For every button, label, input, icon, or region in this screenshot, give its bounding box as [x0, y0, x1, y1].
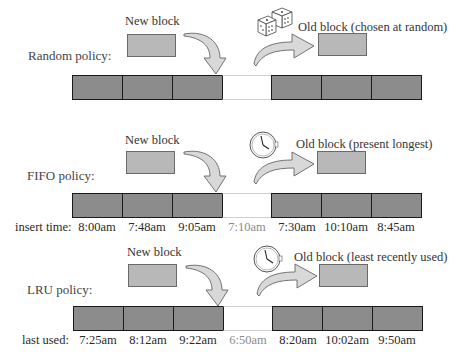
cache-block	[73, 306, 124, 331]
old-block-label: Old block (least recently used)	[294, 250, 447, 265]
cache-block	[173, 306, 224, 331]
cache-block	[271, 75, 322, 100]
cache-block	[321, 75, 372, 100]
old-block	[319, 264, 368, 287]
insert-arrow-icon	[182, 260, 242, 310]
policy-label-lru: LRU policy:	[27, 282, 92, 298]
cache-block	[272, 306, 323, 331]
cache-block	[372, 306, 423, 331]
empty-slot	[222, 193, 273, 218]
new-block	[128, 264, 177, 287]
cache-block	[371, 75, 422, 100]
cache-blocks-random	[72, 75, 422, 100]
empty-slot	[222, 75, 273, 100]
cache-block	[123, 306, 174, 331]
time-value: 8:45am	[366, 220, 426, 235]
cache-block	[172, 193, 223, 218]
last-used-label: last used:	[22, 333, 69, 348]
old-block-label: Old block (present longest)	[296, 137, 432, 152]
cache-block	[322, 306, 373, 331]
policy-label-fifo: FIFO policy:	[27, 168, 95, 184]
evict-arrow-icon	[252, 146, 318, 186]
new-block	[126, 151, 175, 174]
new-block	[127, 34, 176, 57]
cache-block	[172, 75, 223, 100]
cache-block	[271, 193, 322, 218]
insert-time-label: insert time:	[15, 220, 72, 235]
cache-block	[371, 193, 422, 218]
time-value: 9:50am	[367, 333, 427, 348]
cache-block	[122, 75, 173, 100]
policy-label-random: Random policy:	[28, 48, 111, 64]
old-block	[317, 151, 366, 174]
cache-blocks-lru	[73, 306, 423, 331]
cache-blocks-fifo	[72, 193, 422, 218]
insert-arrow-icon	[180, 28, 240, 78]
insert-arrow-icon	[180, 146, 240, 196]
last-used-row: last used: 7:25am 8:12am 9:22am 6:50am 8…	[0, 333, 459, 349]
cache-block	[72, 75, 123, 100]
cache-block	[122, 193, 173, 218]
insert-times-row: insert time: 8:00am 7:48am 9:05am 7:10am…	[0, 220, 459, 236]
new-block-label: New block	[125, 14, 180, 29]
new-block-label: New block	[127, 245, 182, 260]
empty-slot	[223, 306, 274, 331]
cache-block	[72, 193, 123, 218]
new-block-label: New block	[125, 133, 180, 148]
old-block	[318, 33, 367, 56]
cache-block	[321, 193, 372, 218]
